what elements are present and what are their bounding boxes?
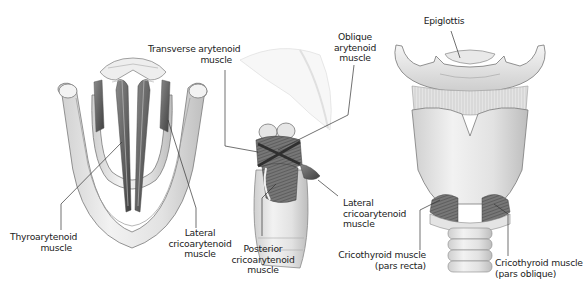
label-cricothyroid-recta: Cricothyroid muscle (pars recta) — [338, 250, 426, 271]
label-thyroarytenoid: Thyroarytenoid muscle — [10, 232, 72, 253]
leader-lateral-cricoarytenoid-right — [318, 180, 338, 196]
thyroarytenoid-right — [135, 80, 150, 212]
cricoid-ring — [92, 95, 172, 189]
thyroid-cartilage — [58, 83, 207, 248]
leader-transverse-arytenoid — [225, 70, 258, 152]
label-oblique-arytenoid: Oblique arytenoid muscle — [330, 32, 380, 64]
label-posterior-cricoarytenoid: Posterior cricoarytenoid muscle — [228, 244, 298, 276]
superior-horn-right — [189, 84, 207, 98]
thyroid-cartilage-front — [412, 108, 528, 204]
posterolateral-view-panel — [240, 49, 331, 268]
epiglottis-shape — [445, 50, 495, 64]
lateral-cricoarytenoid-right-band — [160, 80, 170, 132]
anterior-view-panel — [395, 45, 545, 272]
lateral-cricoarytenoid-left-band — [94, 80, 104, 132]
label-transverse-arytenoid: Transverse arytenoid muscle — [148, 44, 232, 65]
label-lateral-cricoarytenoid-right: Lateral cricoarytenoid muscle — [343, 198, 423, 230]
label-epiglottis: Epiglottis — [414, 16, 474, 27]
trachea — [448, 228, 492, 272]
superior-view-panel — [58, 58, 207, 248]
label-cricothyroid-oblique: Cricothyroid muscle (pars oblique) — [495, 258, 585, 279]
superior-horn-left — [59, 84, 77, 98]
